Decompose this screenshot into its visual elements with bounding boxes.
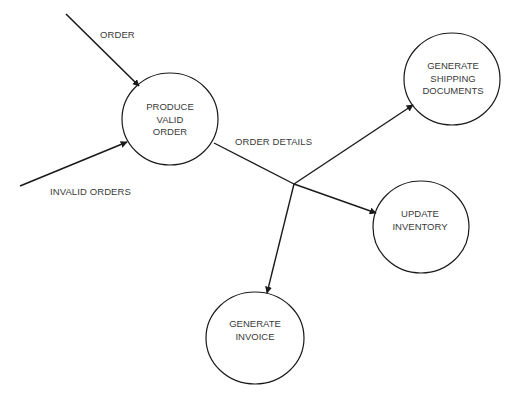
node-label-line: SHIPPING — [422, 73, 483, 86]
flow-to-inventory-arrow — [294, 184, 376, 213]
node-label-line: UPDATE — [392, 208, 447, 221]
flow-label-order: ORDER — [100, 29, 135, 40]
node-label-produce-valid-order: PRODUCE VALID ORDER — [146, 101, 194, 139]
flow-order-arrow — [66, 14, 139, 86]
flow-order-details-trunk — [214, 143, 294, 184]
flow-label-order-details: ORDER DETAILS — [235, 136, 312, 147]
node-label-line: VALID — [146, 114, 194, 127]
flow-to-invoice-arrow — [267, 184, 294, 293]
flow-label-invalid-orders: INVALID ORDERS — [50, 186, 131, 197]
node-label-line: DOCUMENTS — [422, 85, 483, 98]
node-label-line: ORDER — [146, 126, 194, 139]
node-label-generate-shipping-documents: GENERATE SHIPPING DOCUMENTS — [422, 60, 483, 98]
flow-invalid-orders-arrow — [20, 142, 127, 186]
node-label-generate-invoice: GENERATE INVOICE — [229, 318, 281, 343]
node-label-line: PRODUCE — [146, 101, 194, 114]
node-label-line: INVENTORY — [392, 221, 447, 234]
node-label-line: GENERATE — [229, 318, 281, 331]
node-label-line: INVOICE — [229, 331, 281, 344]
node-label-line: GENERATE — [422, 60, 483, 73]
node-label-update-inventory: UPDATE INVENTORY — [392, 208, 447, 233]
